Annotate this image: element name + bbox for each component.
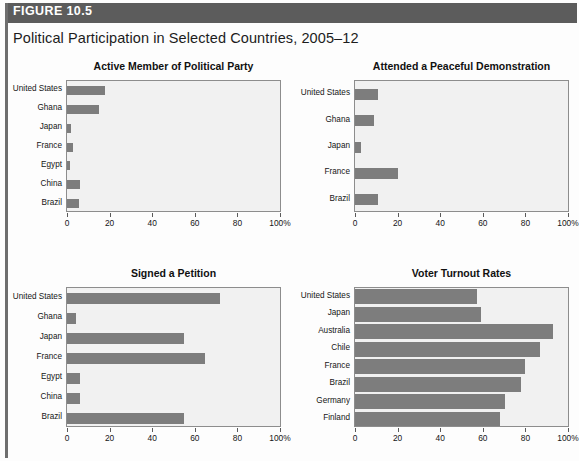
bar: [67, 143, 73, 152]
chart-title: Voter Turnout Rates: [354, 267, 569, 279]
x-tick-label: 60: [478, 218, 487, 228]
category-axis: United StatesGhanaJapanFranceEgyptChinaB…: [8, 287, 66, 427]
x-tick-mark: [355, 428, 356, 432]
x-tick-label: 100%: [557, 218, 578, 228]
category-label: Germany: [316, 397, 350, 405]
category-label: China: [41, 393, 62, 401]
figure-title: Political Participation in Selected Coun…: [13, 30, 359, 46]
x-tick-mark: [67, 213, 68, 217]
x-tick-mark: [67, 428, 68, 432]
bar: [67, 313, 76, 324]
bar: [355, 377, 521, 392]
x-axis: 020406080100%: [354, 213, 569, 231]
x-tick-mark: [568, 428, 569, 432]
x-tick-label: 60: [190, 218, 199, 228]
bar: [67, 180, 80, 189]
bar: [67, 373, 80, 384]
x-tick-label: 20: [393, 433, 402, 443]
plot-area: [66, 80, 281, 212]
bar: [67, 293, 220, 304]
x-tick-label: 100%: [557, 433, 578, 443]
x-tick-mark: [195, 213, 196, 217]
category-label: Brazil: [330, 195, 350, 203]
x-tick-mark: [110, 213, 111, 217]
x-tick-mark: [152, 213, 153, 217]
category-label: United States: [301, 292, 350, 300]
chart-panel-1: Active Member of Political PartyUnited S…: [8, 60, 281, 232]
bar: [67, 333, 184, 344]
figure-number-label: FIGURE 10.5: [13, 4, 92, 18]
category-label: Egypt: [41, 373, 62, 381]
x-tick-mark: [152, 428, 153, 432]
x-tick-label: 60: [478, 433, 487, 443]
category-label: Brazil: [42, 413, 62, 421]
x-tick-label: 40: [148, 218, 157, 228]
category-label: United States: [13, 85, 62, 93]
x-tick-label: 20: [393, 218, 402, 228]
x-axis: 020406080100%: [66, 428, 281, 446]
category-label: China: [41, 180, 62, 188]
bar: [355, 412, 500, 427]
bar: [355, 194, 378, 205]
plot-area: [354, 80, 569, 212]
chart-title: Attended a Peaceful Demonstration: [354, 60, 569, 72]
bar: [355, 142, 361, 153]
bar: [355, 89, 378, 100]
x-tick-label: 80: [521, 218, 530, 228]
figure-container: FIGURE 10.5 Political Participation in S…: [0, 0, 579, 461]
category-label: Brazil: [330, 379, 350, 387]
x-tick-label: 40: [148, 433, 157, 443]
x-tick-label: 100%: [269, 218, 290, 228]
x-axis: 020406080100%: [354, 428, 569, 446]
bar: [355, 289, 477, 304]
x-axis: 020406080100%: [66, 213, 281, 231]
category-label: Ghana: [37, 313, 62, 321]
category-label: United States: [301, 89, 350, 97]
figure-header-band: [8, 3, 577, 23]
x-tick-mark: [280, 428, 281, 432]
bar: [67, 353, 205, 364]
bar: [355, 394, 505, 409]
x-tick-mark: [280, 213, 281, 217]
x-tick-mark: [237, 428, 238, 432]
category-label: France: [37, 142, 62, 150]
x-tick-mark: [195, 428, 196, 432]
category-label: Egypt: [41, 161, 62, 169]
x-tick-label: 80: [521, 433, 530, 443]
x-tick-label: 80: [233, 218, 242, 228]
bar: [355, 307, 481, 322]
plot-area: [66, 287, 281, 427]
bar: [355, 115, 374, 126]
bar: [67, 199, 79, 208]
category-label: Australia: [318, 327, 350, 335]
category-axis: United StatesGhanaJapanFranceBrazil: [296, 80, 354, 212]
chart-title: Signed a Petition: [66, 267, 281, 279]
category-label: Finland: [323, 414, 350, 422]
category-label: France: [325, 362, 350, 370]
x-tick-label: 100%: [269, 433, 290, 443]
bar: [67, 393, 80, 404]
x-tick-label: 20: [105, 433, 114, 443]
x-tick-label: 80: [233, 433, 242, 443]
bar: [355, 324, 553, 339]
x-tick-label: 60: [190, 433, 199, 443]
x-tick-mark: [237, 213, 238, 217]
bar: [67, 86, 105, 95]
bar: [67, 105, 99, 114]
x-tick-mark: [398, 428, 399, 432]
x-tick-label: 20: [105, 218, 114, 228]
bar: [67, 413, 184, 424]
plot-area: [354, 287, 569, 427]
x-tick-label: 0: [353, 433, 358, 443]
category-label: Japan: [328, 142, 350, 150]
x-tick-mark: [568, 213, 569, 217]
category-label: Chile: [331, 344, 350, 352]
category-label: Japan: [328, 309, 350, 317]
chart-panel-2: Attended a Peaceful DemonstrationUnited …: [296, 60, 569, 232]
chart-panel-4: Voter Turnout RatesUnited StatesJapanAus…: [296, 267, 569, 447]
x-tick-mark: [525, 428, 526, 432]
x-tick-mark: [440, 428, 441, 432]
x-tick-mark: [525, 213, 526, 217]
x-tick-mark: [110, 428, 111, 432]
x-tick-mark: [398, 213, 399, 217]
